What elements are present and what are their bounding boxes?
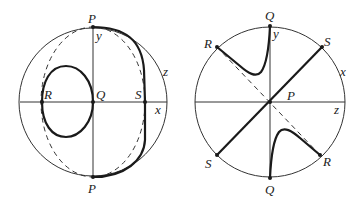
right-label-r-upper: R <box>203 36 212 51</box>
right-point-q-top <box>268 24 272 28</box>
left-label-q: Q <box>96 87 106 102</box>
right-lower-branch <box>270 129 320 178</box>
left-label-x: x <box>154 102 161 117</box>
left-label-s: S <box>135 87 142 102</box>
left-label-p-bottom: P <box>87 181 96 196</box>
left-label-r: R <box>43 87 52 102</box>
left-point-q <box>91 100 95 104</box>
right-point-p <box>268 100 272 104</box>
figure-canvas: P y z R Q S x P Q y R S x P z <box>0 0 363 205</box>
right-diagram: Q y R S x P z S R Q <box>195 8 346 197</box>
right-label-s-lower: S <box>205 156 212 171</box>
left-label-y: y <box>94 28 102 43</box>
right-label-x: x <box>339 64 346 79</box>
right-label-q-bottom: Q <box>265 182 275 197</box>
left-label-p-top: P <box>87 11 96 26</box>
right-point-r-upper <box>215 45 219 49</box>
right-label-p: P <box>286 88 295 103</box>
right-label-q-top: Q <box>265 8 275 23</box>
left-diagram: P y z R Q S x P <box>19 11 168 196</box>
left-label-z: z <box>162 64 168 79</box>
right-label-r-lower: R <box>322 154 331 169</box>
right-upper-branch <box>217 26 270 75</box>
right-point-q-bottom <box>268 176 272 180</box>
left-point-s <box>143 100 147 104</box>
right-label-z: z <box>333 102 339 117</box>
right-label-s-upper: S <box>324 34 331 49</box>
right-point-s-lower <box>215 153 219 157</box>
right-point-r-lower <box>318 153 322 157</box>
right-label-y: y <box>271 26 279 41</box>
left-point-p-bottom <box>91 175 95 179</box>
